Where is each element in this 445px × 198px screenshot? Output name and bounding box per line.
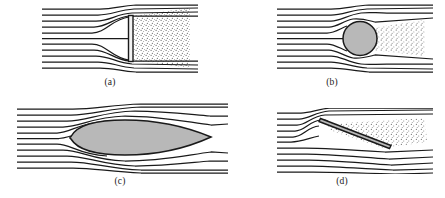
body-flat-plate-normal (129, 16, 134, 62)
body-circular-cylinder (343, 22, 377, 56)
panel-d-diagram (275, 108, 435, 174)
panel-b (275, 4, 435, 74)
caption-panel-d: (d) (330, 176, 354, 186)
caption-panel-c: (c) (108, 176, 132, 186)
panel-a (40, 4, 200, 74)
panel-d (275, 108, 435, 174)
body-streamlined-airfoil (70, 120, 211, 155)
panel-a-diagram (40, 4, 200, 74)
panel-c-diagram (15, 103, 230, 175)
wake-region-d (323, 114, 435, 154)
panel-c (15, 103, 230, 175)
caption-panel-b: (b) (320, 77, 344, 87)
panel-b-diagram (275, 4, 435, 74)
flow-separation-figure: (a) (0, 0, 445, 198)
caption-panel-a: (a) (98, 77, 122, 87)
